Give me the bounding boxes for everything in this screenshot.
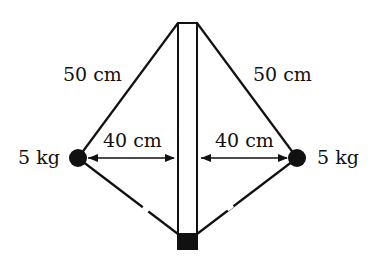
lower-left-string [78, 158, 178, 234]
right-mass-label: 5 kg [317, 148, 359, 167]
vertical-pole [178, 23, 197, 235]
bottom-block [177, 233, 198, 250]
left-distance-label: 40 cm [103, 131, 162, 150]
right-distance-label: 40 cm [215, 131, 274, 150]
right-arrowhead-left [201, 154, 211, 162]
right-arrowhead-right [278, 154, 288, 162]
upper-left-string-label: 50 cm [63, 65, 122, 84]
left-arrowhead-right [165, 154, 175, 162]
left-arrowhead-left [88, 154, 98, 162]
diagram-graphics [0, 0, 379, 265]
upper-right-string-label: 50 cm [253, 65, 312, 84]
lower-right-string [197, 158, 297, 234]
string-gap [225, 203, 234, 211]
right-mass-ball [288, 149, 306, 167]
left-mass-ball [69, 149, 87, 167]
diagram-canvas: 50 cm 50 cm 5 kg 5 kg 40 cm 40 cm [0, 0, 379, 265]
left-mass-label: 5 kg [18, 148, 60, 167]
